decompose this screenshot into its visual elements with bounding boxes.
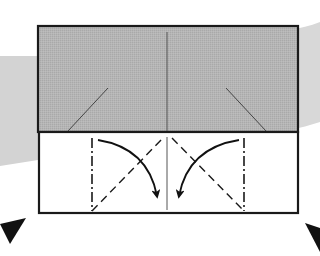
origami-fold-diagram	[0, 0, 320, 256]
right-triangle-marker	[305, 223, 320, 252]
left-triangle-marker	[0, 218, 26, 244]
white-strip	[39, 132, 298, 213]
colored-panel	[38, 26, 298, 132]
